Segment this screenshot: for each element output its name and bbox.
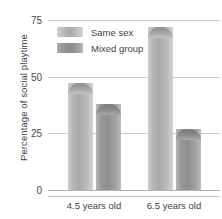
x-axis-label-group2: 6.5 years old <box>147 200 201 211</box>
legend: Same sex Mixed group <box>57 25 143 57</box>
legend-swatch-icon <box>57 43 83 53</box>
bar-group1-same-sex <box>68 83 93 190</box>
bar-group2-mixed-group <box>176 129 201 190</box>
bar-group2-same-sex <box>148 27 173 190</box>
bar-group1-mixed-group <box>96 104 121 190</box>
bar-top-ellipse <box>96 104 121 115</box>
bar-top-ellipse <box>148 27 173 38</box>
legend-item-mixed-group: Mixed group <box>57 41 143 55</box>
legend-label-mixed-group: Mixed group <box>91 43 143 54</box>
bar-chart: Percentage of social playtime 75 50 25 0 <box>0 0 222 219</box>
y-axis-title: Percentage of social playtime <box>18 13 29 183</box>
y-tick-label-50: 50 <box>31 71 42 82</box>
gridline-50: 50 <box>48 77 220 78</box>
bar-top-ellipse <box>68 83 93 94</box>
bar-top-ellipse <box>176 129 201 140</box>
gridline-0: 0 <box>48 190 220 191</box>
y-tick-label-25: 25 <box>31 128 42 139</box>
x-axis-line <box>48 196 220 197</box>
legend-label-same-sex: Same sex <box>91 27 133 38</box>
y-tick-label-0: 0 <box>36 185 42 196</box>
legend-swatch-icon <box>57 27 83 37</box>
y-tick-label-75: 75 <box>31 15 42 26</box>
gridline-75: 75 <box>48 20 220 21</box>
legend-item-same-sex: Same sex <box>57 25 143 39</box>
x-axis-label-group1: 4.5 years old <box>67 200 121 211</box>
